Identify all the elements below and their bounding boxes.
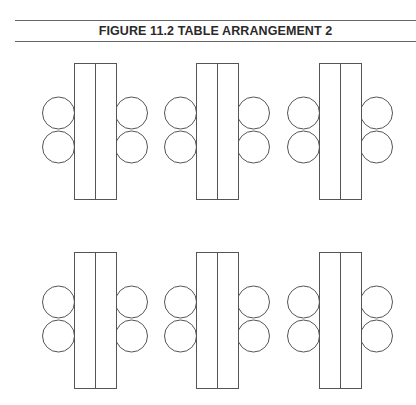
chair-left-1 — [288, 97, 320, 129]
chair-right-2 — [238, 320, 270, 352]
table-group — [288, 64, 393, 200]
table-group — [165, 64, 270, 200]
chair-right-2 — [361, 131, 393, 163]
chair-left-2 — [43, 131, 75, 163]
chair-right-2 — [238, 131, 270, 163]
table-group — [43, 253, 148, 389]
chair-left-1 — [288, 286, 320, 318]
chair-right-1 — [361, 286, 393, 318]
chair-left-2 — [165, 320, 197, 352]
table-group — [165, 253, 270, 389]
chair-right-1 — [116, 97, 148, 129]
chair-right-2 — [116, 320, 148, 352]
chair-right-1 — [116, 286, 148, 318]
chair-left-1 — [43, 97, 75, 129]
chair-left-2 — [288, 131, 320, 163]
chair-left-2 — [288, 320, 320, 352]
chair-left-2 — [43, 320, 75, 352]
table-group — [43, 64, 148, 200]
chair-right-1 — [238, 97, 270, 129]
chair-left-2 — [165, 131, 197, 163]
chair-right-1 — [238, 286, 270, 318]
chair-right-2 — [116, 131, 148, 163]
chair-right-2 — [361, 320, 393, 352]
chair-right-1 — [361, 97, 393, 129]
table-arrangement-diagram — [0, 0, 416, 405]
chair-left-1 — [165, 286, 197, 318]
table-group — [288, 253, 393, 389]
chair-left-1 — [43, 286, 75, 318]
chair-left-1 — [165, 97, 197, 129]
